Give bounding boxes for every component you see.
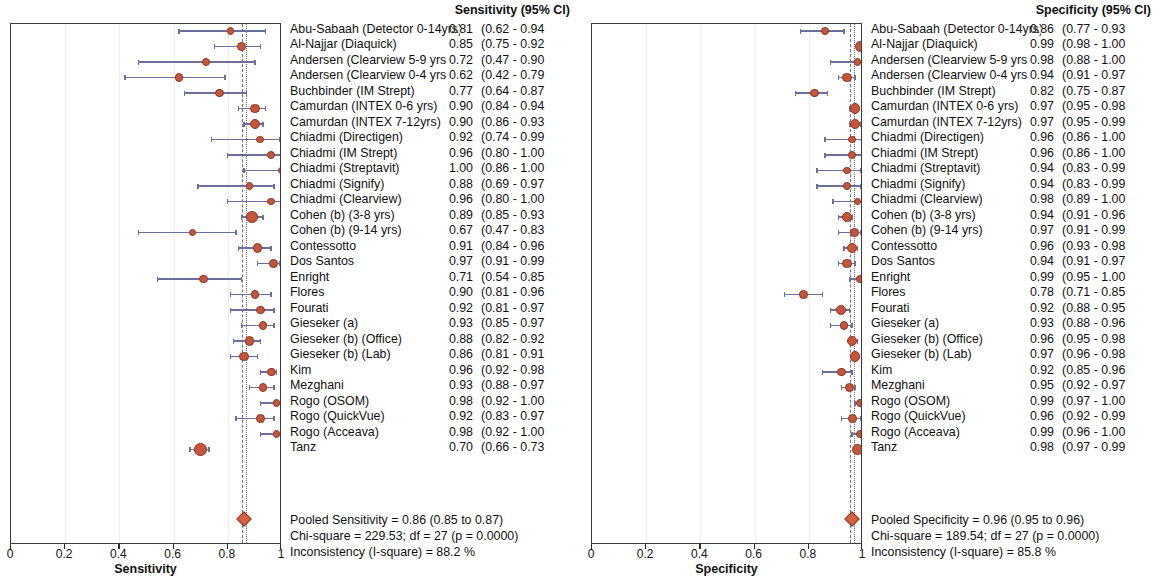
study-marker	[273, 399, 280, 407]
ci-cap-high	[857, 339, 858, 344]
study-marker	[239, 352, 249, 362]
estimate-value: 0.89	[440, 208, 473, 222]
estimate-value: 0.86	[440, 347, 473, 361]
estimate-value: 0.96	[1021, 332, 1054, 346]
table-row: Fourati0.92(0.81 - 0.97	[290, 301, 581, 317]
estimate-value: 0.90	[440, 115, 473, 129]
table-row: Gieseker (b) (Lab)0.86(0.81 - 0.91	[290, 347, 581, 363]
ci-cap-high	[279, 137, 280, 142]
study-label: Andersen (Clearview 5-9 yrs	[871, 53, 1041, 67]
axis-tick-label: 0.8	[218, 547, 235, 561]
table-row: Abu-Sabaah (Detector 0-14yrs)0.86(0.77 -…	[871, 22, 1162, 38]
study-label: Camurdan (INTEX 0-6 yrs)	[871, 99, 1041, 113]
estimate-value: 0.97	[440, 254, 473, 268]
confidence-interval-text: (0.91 - 0.99	[481, 254, 544, 268]
plot-area-sensitivity	[10, 23, 281, 544]
confidence-interval-text: (0.62 - 0.94	[481, 22, 544, 36]
table-row: Gieseker (b) (Office)0.96(0.95 - 0.98	[871, 332, 1162, 348]
study-label: Flores	[871, 285, 1041, 299]
forest-row-marker	[11, 318, 280, 334]
estimate-value: 0.91	[440, 239, 473, 253]
study-marker	[199, 275, 208, 284]
ci-cap-high	[860, 184, 861, 189]
study-marker	[848, 414, 857, 423]
estimate-value: 0.96	[440, 363, 473, 377]
ci-cap-low	[233, 339, 234, 344]
study-label: Chiadmi (IM Strept)	[290, 146, 460, 160]
table-row: Kim0.96(0.92 - 0.98	[290, 363, 581, 379]
confidence-interval-text: (0.81 - 0.97	[481, 301, 544, 315]
study-marker	[250, 119, 261, 130]
study-marker	[850, 228, 859, 237]
confidence-interval-text: (0.71 - 0.85	[1062, 285, 1125, 299]
confidence-interval-line	[231, 309, 274, 311]
table-row: Camurdan (INTEX 0-6 yrs)0.97(0.95 - 0.98	[871, 99, 1162, 115]
study-label: Gieseker (a)	[290, 316, 460, 330]
forest-row-marker	[11, 411, 280, 427]
study-label: Mezghani	[871, 378, 1041, 392]
ci-cap-low	[214, 44, 215, 49]
confidence-interval-text: (0.97 - 0.99	[1062, 440, 1125, 454]
ci-cap-low	[184, 91, 185, 96]
ci-cap-high	[273, 416, 274, 421]
confidence-interval-text: (0.96 - 1.00	[1062, 425, 1125, 439]
table-row: Andersen (Clearview 0-4 yrs0.94(0.91 - 0…	[871, 68, 1162, 84]
estimate-value: 0.92	[1021, 363, 1054, 377]
estimate-value: 0.99	[1021, 270, 1054, 284]
study-marker	[837, 368, 846, 377]
study-label: Rogo (Acceava)	[290, 425, 460, 439]
forest-row-marker	[592, 411, 861, 427]
confidence-interval-line	[236, 418, 274, 420]
study-marker	[256, 306, 265, 315]
ci-cap-high	[260, 44, 261, 49]
study-marker	[237, 42, 247, 52]
forest-row-marker	[592, 209, 861, 225]
estimate-value: 0.88	[440, 177, 473, 191]
table-row: Rogo (QuickVue)0.96(0.92 - 0.99	[871, 409, 1162, 425]
estimate-value: 0.94	[1021, 177, 1054, 191]
confidence-interval-line	[241, 325, 274, 327]
ci-cap-low	[843, 246, 844, 251]
study-marker	[850, 351, 861, 362]
forest-row-marker	[592, 333, 861, 349]
confidence-interval-text: (0.86 - 1.00	[1062, 146, 1125, 160]
study-label: Gieseker (b) (Lab)	[290, 347, 460, 361]
confidence-interval-text: (0.81 - 0.96	[481, 285, 544, 299]
estimate-value: 0.96	[1021, 239, 1054, 253]
study-marker	[845, 383, 855, 393]
estimate-value: 0.70	[440, 440, 473, 454]
forest-row-marker	[11, 287, 280, 303]
study-marker	[821, 27, 830, 36]
estimate-value: 0.96	[1021, 409, 1054, 423]
forest-row-marker	[592, 240, 861, 256]
study-marker	[245, 336, 255, 346]
estimate-value: 1.00	[440, 161, 473, 175]
study-marker	[847, 336, 858, 347]
estimate-value: 0.96	[440, 192, 473, 206]
confidence-interval-text: (0.91 - 0.96	[1062, 208, 1125, 222]
confidence-interval-text: (0.88 - 0.97	[481, 378, 544, 392]
forest-row-marker	[11, 225, 280, 241]
confidence-interval-text: (0.64 - 0.87	[481, 84, 544, 98]
study-label: Chiadmi (Clearview)	[290, 192, 460, 206]
study-label: Abu-Sabaah (Detector 0-14yrs)	[290, 22, 460, 36]
forest-row-marker	[11, 101, 280, 117]
study-label: Cohen (b) (3-8 yrs)	[871, 208, 1041, 222]
forest-row-marker	[592, 364, 861, 380]
study-marker	[227, 27, 235, 35]
column-header-sensitivity: Sensitivity (95% CI)	[455, 3, 570, 17]
study-marker	[855, 41, 861, 52]
confidence-interval-text: (0.88 - 1.00	[1062, 53, 1125, 67]
study-marker	[848, 151, 856, 159]
forest-row-marker	[592, 116, 861, 132]
table-row: Rogo (OSOM)0.99(0.97 - 1.00	[871, 394, 1162, 410]
estimate-value: 0.97	[1021, 223, 1054, 237]
study-label: Rogo (OSOM)	[290, 394, 460, 408]
confidence-interval-text: (0.91 - 0.97	[1062, 68, 1125, 82]
confidence-interval-text: (0.47 - 0.90	[481, 53, 544, 67]
ci-cap-high	[822, 292, 823, 297]
table-row: Rogo (Acceava)0.98(0.92 - 1.00	[290, 425, 581, 441]
table-row: Camurdan (INTEX 7-12yrs)0.97(0.95 - 0.99	[871, 115, 1162, 131]
forest-row-marker	[11, 256, 280, 272]
confidence-interval-line	[212, 139, 280, 141]
